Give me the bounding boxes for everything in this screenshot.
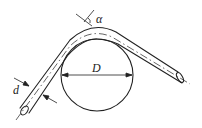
bent-tube-diagram: α D d [0,0,202,128]
D-label: D [92,62,101,74]
tube-centerline [16,34,190,120]
alpha-extension-line [84,10,94,22]
tube-inner-edge [29,39,182,113]
tube-end-right [175,71,185,83]
alpha-label: α [96,13,102,25]
d-label: d [13,84,19,96]
alpha-arc [88,18,90,23]
